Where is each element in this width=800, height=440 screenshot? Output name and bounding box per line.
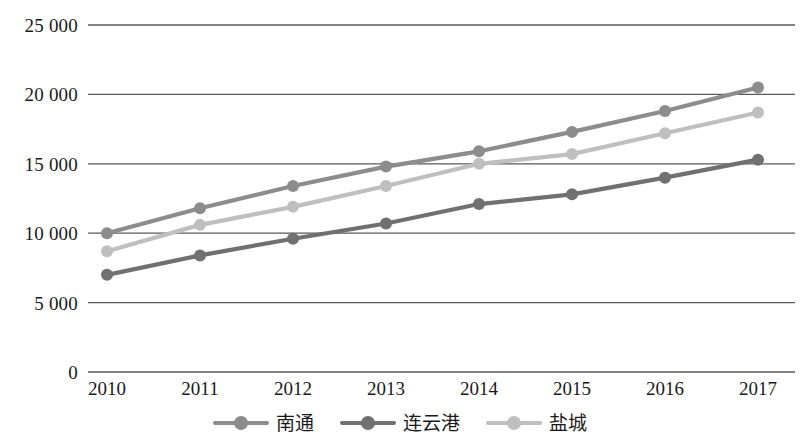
x-axis-tick-label: 2015: [527, 377, 617, 401]
legend-item[interactable]: 盐城: [486, 414, 587, 433]
data-point-marker: [287, 180, 299, 192]
data-point-marker: [659, 127, 671, 139]
data-point-marker: [380, 180, 392, 192]
data-point-marker: [194, 202, 206, 214]
legend-marker-icon: [340, 416, 396, 430]
y-axis-tick-label: 25 000: [0, 16, 78, 35]
data-point-marker: [101, 227, 113, 239]
plot-svg: [88, 25, 795, 372]
legend-marker-icon: [213, 416, 269, 430]
y-axis-tick-label: 10 000: [0, 224, 78, 243]
data-point-marker: [380, 161, 392, 173]
data-point-marker: [194, 249, 206, 261]
data-point-marker: [659, 172, 671, 184]
x-axis-tick-label: 2011: [155, 377, 245, 401]
series-1: [101, 154, 764, 281]
x-axis-tick-label: 2010: [62, 377, 152, 401]
data-point-marker: [287, 233, 299, 245]
chart-legend: 南通连云港盐城: [0, 406, 800, 440]
x-axis-tick-label: 2012: [248, 377, 338, 401]
data-point-marker: [101, 245, 113, 257]
data-point-marker: [101, 269, 113, 281]
data-point-marker: [566, 126, 578, 138]
legend-label: 盐城: [549, 414, 587, 433]
y-axis-tick-label: 15 000: [0, 155, 78, 174]
data-point-marker: [752, 81, 764, 93]
data-point-marker: [194, 219, 206, 231]
legend-label: 连云港: [403, 414, 460, 433]
data-point-marker: [566, 148, 578, 160]
data-point-marker: [566, 188, 578, 200]
x-axis-tick-label: 2016: [620, 377, 710, 401]
y-axis-tick-label: 5 000: [0, 294, 78, 313]
x-axis-tick-label: 2014: [434, 377, 524, 401]
data-point-marker: [752, 154, 764, 166]
y-axis-tick-label: 20 000: [0, 85, 78, 104]
legend-item[interactable]: 连云港: [340, 414, 460, 433]
data-point-marker: [473, 158, 485, 170]
x-axis-tick-label: 2013: [341, 377, 431, 401]
data-point-marker: [473, 198, 485, 210]
legend-item[interactable]: 南通: [213, 414, 314, 433]
data-point-marker: [752, 106, 764, 118]
legend-label: 南通: [276, 414, 314, 433]
data-point-marker: [659, 105, 671, 117]
plot-area: [88, 25, 795, 372]
data-point-marker: [473, 145, 485, 157]
data-point-marker: [287, 201, 299, 213]
legend-marker-icon: [486, 416, 542, 430]
data-point-marker: [380, 217, 392, 229]
x-axis-tick-label: 2017: [713, 377, 800, 401]
x-axis: 20102011201220132014201520162017: [88, 377, 795, 403]
line-chart: 25 00020 00015 00010 0005 0000 201020112…: [0, 0, 800, 440]
